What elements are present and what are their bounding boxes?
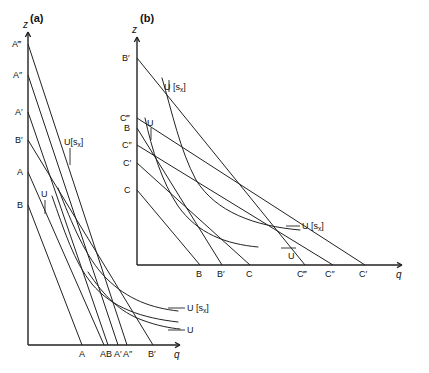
panel-a-y-axis-label: z [22, 19, 28, 30]
panel-a-curve-label-U-upper: U [41, 189, 48, 199]
panel-b-budget-line-2 [137, 118, 365, 265]
panel-b-budget-line-1 [137, 58, 305, 265]
panel-b-curve-label-Usx-lower: U [sx] [302, 221, 324, 232]
panel-b-curve-label-U-upper: U [147, 118, 154, 128]
panel-a-budget-line-5 [28, 172, 104, 345]
panel-b-y-tick-C1: C′ [123, 158, 131, 168]
panel-b-x-tick-C1: C′ [359, 269, 367, 279]
panel-a-y-tick-A: A [17, 167, 23, 177]
panel-b-y-tick-C2: C″ [122, 140, 132, 150]
panel-a: (a) z q A‴ A″ A′ B′ A B A AB A′ A″ B′ [12, 12, 209, 360]
panel-b-x-tick-B1: B′ [217, 269, 225, 279]
panel-b-y-tick-C3: C‴ [120, 113, 130, 123]
panel-a-budget-line-2 [28, 75, 118, 345]
panel-a-y-tick-A2: A″ [13, 70, 23, 80]
panel-a-curve-label-Usx-lower: U [sx] [187, 303, 209, 314]
panel-b-y-tick-B: B [124, 123, 130, 133]
panel-a-x-axis-label: q [174, 349, 180, 360]
panel-a-y-tick-A1: A′ [15, 107, 23, 117]
economics-indifference-figure: (a) z q A‴ A″ A′ B′ A B A AB A′ A″ B′ [0, 0, 429, 373]
panel-b-budget-line-4 [137, 145, 333, 265]
panel-a-indifference-curve-Usx-upper [58, 188, 178, 311]
panel-b-x-tick-C: C [246, 269, 253, 279]
panel-a-y-tick-A3: A‴ [12, 39, 22, 49]
panel-a-y-tick-B: B [17, 200, 23, 210]
panel-b-x-tick-C3: C‴ [297, 269, 307, 279]
panel-b-label: (b) [140, 12, 154, 24]
panel-b: (b) z q B′ C‴ B C″ C′ C B B′ C C‴ C″ C′ [120, 12, 402, 280]
panel-b-indifference-curve-Usx-upper [162, 78, 300, 230]
panel-b-y-axis-label: z [131, 24, 137, 35]
panel-a-indifference-curve-U-upper [52, 196, 178, 322]
panel-b-curve-label-Usx-upper: U [sx] [164, 82, 186, 93]
panel-a-x-tick-A: A [79, 349, 85, 359]
panel-a-x-tick-B1: B′ [148, 349, 156, 359]
panel-b-y-tick-C: C [124, 185, 131, 195]
panel-a-curve-label-U-lower: U [187, 325, 194, 335]
panel-b-x-axis-label: q [396, 269, 402, 280]
panel-a-label: (a) [30, 12, 44, 24]
figure-container: (a) z q A‴ A″ A′ B′ A B A AB A′ A″ B′ [0, 0, 429, 373]
panel-a-x-tick-AB: AB [100, 349, 112, 359]
panel-a-curve-label-Usx-upper: U[sx] [64, 137, 83, 148]
panel-a-x-tick-A1: A′ [114, 349, 122, 359]
panel-a-y-tick-B1: B′ [15, 135, 23, 145]
panel-b-budget-line-6 [137, 190, 200, 265]
panel-b-x-tick-B: B [196, 269, 202, 279]
panel-a-x-tick-A2: A″ [123, 349, 133, 359]
panel-b-budget-line-5 [137, 163, 250, 265]
panel-b-curve-label-U-lower: U [288, 251, 295, 261]
panel-b-y-tick-B1: B′ [122, 53, 130, 63]
panel-b-x-tick-C2: C″ [325, 269, 335, 279]
